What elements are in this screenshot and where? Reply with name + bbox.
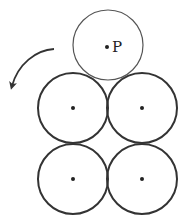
moving-coin: P [73,10,143,80]
fixed-coins [38,73,177,214]
fixed-coin-bottom-right [107,144,177,214]
point-p-label: P [112,38,122,56]
fixed-coin-bottom-left [38,144,108,214]
fixed-coin-top-right [107,73,177,143]
rolling-coins-diagram: P [0,0,187,223]
fixed-coin-top-left [38,73,108,143]
rotation-arrow-icon [12,49,54,86]
point-p-dot [105,45,109,49]
